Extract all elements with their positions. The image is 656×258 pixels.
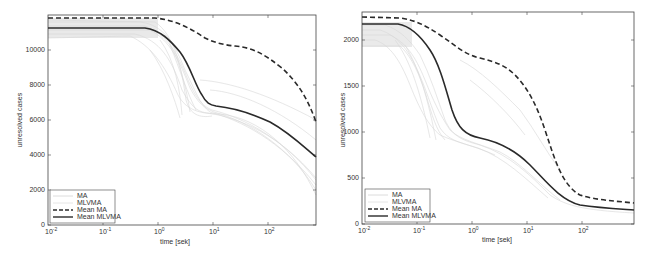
svg-text:MLVMA: MLVMA [392,198,417,205]
svg-text:Mean MLVMA: Mean MLVMA [392,212,436,219]
svg-text:MLVMA: MLVMA [77,199,102,206]
left-ytick-10000: 10000 [26,46,46,53]
right-ytick-500: 500 [347,174,359,181]
svg-text:102: 102 [264,226,275,235]
svg-text:MA: MA [77,192,88,199]
right-x-axis-label: time [sek] [482,236,512,244]
right-legend: MA MLVMA Mean MA Mean MLVMA [365,189,436,222]
svg-text:Mean MA: Mean MA [77,206,107,213]
svg-text:10-1: 10-1 [99,226,111,235]
left-y-axis-label: unresolved cases [16,92,23,147]
svg-text:100: 100 [154,226,165,235]
svg-text:10-1: 10-1 [413,225,425,234]
right-run-bundle [362,22,634,213]
svg-text:101: 101 [209,226,220,235]
right-ytick-0: 0 [355,220,359,227]
right-y-axis-label: unresolved cases [339,92,346,147]
left-x-axis-label: time [sek] [160,238,190,246]
svg-text:102: 102 [578,225,589,234]
figure: 0 2000 4000 6000 8000 10000 10-2 10-1 10… [0,0,656,258]
svg-text:MA: MA [392,191,403,198]
left-legend: MA MLVMA Mean MA Mean MLVMA [50,190,121,223]
left-ytick-6000: 6000 [29,116,45,123]
svg-text:10-2: 10-2 [45,226,57,235]
right-chart: 0 500 1000 1500 2000 10-2 10-1 100 101 1… [339,12,634,244]
right-ytick-1500: 1500 [343,82,359,89]
right-ytick-2000: 2000 [343,36,359,43]
left-chart: 0 2000 4000 6000 8000 10000 10-2 10-1 10… [16,15,316,246]
left-run-bundle [48,18,316,195]
svg-text:101: 101 [523,225,534,234]
svg-text:Mean MLVMA: Mean MLVMA [77,213,121,220]
left-mean-mlvma-line [48,28,316,157]
left-ytick-4000: 4000 [29,151,45,158]
right-xtick-labels: 10-2 10-1 100 101 102 [358,225,589,234]
svg-text:10-2: 10-2 [358,225,370,234]
svg-text:Mean MA: Mean MA [392,205,422,212]
svg-text:100: 100 [468,225,479,234]
left-xtick-labels: 10-2 10-1 100 101 102 [45,226,275,235]
left-ytick-8000: 8000 [29,81,45,88]
left-ytick-0: 0 [41,221,45,228]
left-ytick-2000: 2000 [29,186,45,193]
